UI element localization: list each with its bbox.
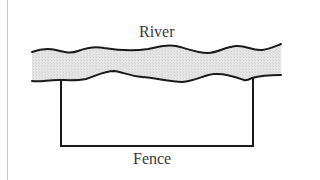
fence-label: Fence [133,151,171,167]
fence [61,77,253,146]
river-label: River [139,24,175,40]
river-water [32,44,281,82]
